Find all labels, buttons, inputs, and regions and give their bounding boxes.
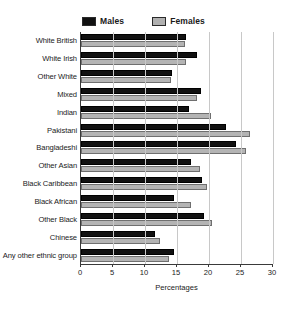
gridline-10 (145, 32, 146, 264)
x-axis: 051015202530 (80, 264, 273, 265)
x-tick-30 (272, 264, 273, 267)
bar-females-chinese (81, 238, 160, 244)
x-tick-label-0: 0 (78, 268, 82, 277)
x-tick-25 (240, 264, 241, 267)
x-tick-label-10: 10 (140, 268, 148, 277)
gridline-25 (241, 32, 242, 264)
y-axis-category-labels: White BritishWhite IrishOther WhiteMixed… (0, 32, 77, 264)
bar-females-other-black (81, 220, 212, 226)
y-axis-label-black-african: Black African (34, 193, 77, 211)
bar-females-white-british (81, 41, 185, 47)
legend-item-females: Females (152, 17, 205, 26)
x-tick-label-25: 25 (236, 268, 244, 277)
bar-males-pakistani (81, 124, 226, 130)
x-tick-label-15: 15 (172, 268, 180, 277)
x-tick-20 (208, 264, 209, 267)
x-tick-0 (80, 264, 81, 267)
bar-females-bangladeshi (81, 148, 246, 154)
bar-males-other-black (81, 213, 204, 219)
legend-label-males: Males (100, 17, 124, 26)
bar-males-white-british (81, 34, 186, 40)
x-axis-title: Percentages (80, 283, 273, 292)
gridline-20 (209, 32, 210, 264)
x-tick-5 (112, 264, 113, 267)
gridline-15 (177, 32, 178, 264)
y-axis-label-white-irish: White Irish (42, 50, 77, 68)
y-axis-label-other-white: Other White (38, 68, 77, 86)
bar-females-white-irish (81, 59, 186, 65)
x-tick-15 (176, 264, 177, 267)
bar-females-other-white (81, 77, 171, 83)
x-tick-label-30: 30 (268, 268, 276, 277)
bar-males-any-other-ethnic-group (81, 249, 174, 255)
legend-swatch-females-icon (152, 17, 166, 26)
y-axis-label-any-other-ethnic-group: Any other ethnic group (3, 246, 77, 264)
bar-males-other-white (81, 70, 172, 76)
bar-males-white-irish (81, 52, 197, 58)
bar-females-other-asian (81, 166, 200, 172)
bar-females-any-other-ethnic-group (81, 256, 169, 262)
legend-label-females: Females (170, 17, 205, 26)
legend-swatch-males-icon (82, 17, 96, 26)
y-axis-label-other-black: Other Black (38, 210, 77, 228)
y-axis-label-bangladeshi: Bangladeshi (36, 139, 77, 157)
bar-males-bangladeshi (81, 141, 236, 147)
x-tick-label-5: 5 (110, 268, 114, 277)
plot-area (80, 32, 273, 264)
y-axis-label-other-asian: Other Asian (38, 157, 77, 175)
y-axis-label-white-british: White British (36, 32, 77, 50)
bar-chart-figure: Males Females White BritishWhite IrishOt… (0, 0, 290, 310)
bar-males-mixed (81, 88, 201, 94)
y-axis-label-pakistani: Pakistani (47, 121, 77, 139)
gridline-30 (273, 32, 274, 264)
y-axis-label-chinese: Chinese (50, 228, 77, 246)
gridline-5 (113, 32, 114, 264)
x-tick-label-20: 20 (204, 268, 212, 277)
chart-legend: Males Females (80, 14, 280, 28)
bar-females-pakistani (81, 131, 250, 137)
x-tick-10 (144, 264, 145, 267)
bar-males-black-caribbean (81, 177, 202, 183)
legend-item-males: Males (82, 17, 124, 26)
bar-males-indian (81, 106, 189, 112)
y-axis-label-black-caribbean: Black Caribbean (23, 175, 77, 193)
bar-females-mixed (81, 95, 197, 101)
y-axis-label-indian: Indian (57, 103, 77, 121)
y-axis-label-mixed: Mixed (57, 86, 77, 104)
bar-males-other-asian (81, 159, 191, 165)
bar-females-black-african (81, 202, 191, 208)
bar-males-black-african (81, 195, 174, 201)
